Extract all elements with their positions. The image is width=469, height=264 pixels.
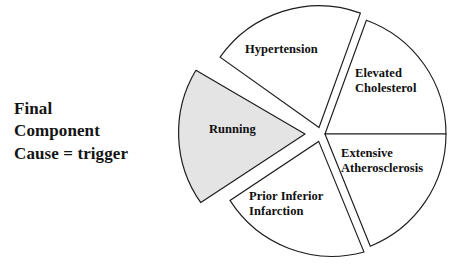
slice-label-running: Running <box>209 122 256 137</box>
slice-label-elevated-cholesterol-line-2: Cholesterol <box>355 81 416 96</box>
slice-label-prior-inferior-infarction: Prior Inferior Infarction <box>249 189 323 220</box>
slice-label-elevated-cholesterol-line-1: Elevated <box>355 66 416 81</box>
slice-label-extensive-atherosclerosis: Extensive Atherosclerosis <box>341 146 423 177</box>
slice-label-extensive-atherosclerosis-line-1: Extensive <box>341 146 423 161</box>
slice-label-extensive-atherosclerosis-line-2: Atherosclerosis <box>341 161 423 176</box>
caption-line-1: Final <box>14 98 174 120</box>
slice-label-hypertension-line-1: Hypertension <box>245 42 318 57</box>
slice-label-hypertension: Hypertension <box>245 42 318 57</box>
caption-line-3: Cause = trigger <box>14 143 174 165</box>
final-component-cause-caption: Final Component Cause = trigger <box>14 98 174 165</box>
slice-label-running-line-1: Running <box>209 122 256 137</box>
pie-chart-figure: Final Component Cause = trigger Hyperten… <box>0 0 469 264</box>
slice-label-prior-inferior-infarction-line-2: Infarction <box>249 204 323 219</box>
slice-label-elevated-cholesterol: Elevated Cholesterol <box>355 66 416 97</box>
caption-line-2: Component <box>14 120 174 142</box>
slice-label-prior-inferior-infarction-line-1: Prior Inferior <box>249 189 323 204</box>
